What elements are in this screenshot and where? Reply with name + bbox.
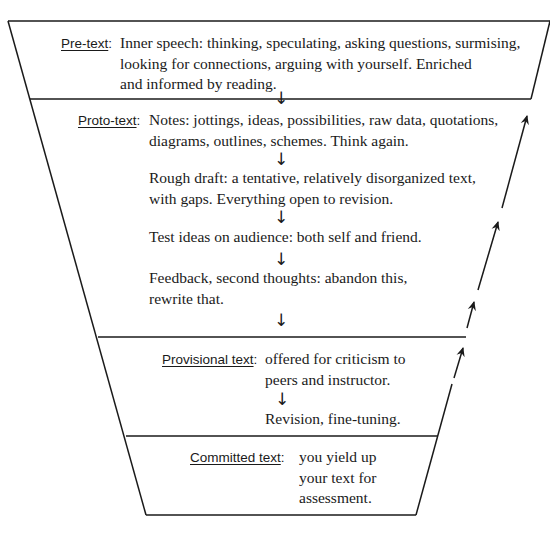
down-arrow-icon: ↓ <box>274 311 288 329</box>
committed-text-description: you yield up your text for assessment. <box>299 447 377 509</box>
proto-text-notes: Notes: jottings, ideas, possibilities, r… <box>149 110 498 151</box>
feedback-arrow-1 <box>502 116 527 208</box>
feedback-arrow-2 <box>478 222 498 290</box>
provisional-text-revision: Revision, fine-tuning. <box>265 409 401 430</box>
pre-text-description: Inner speech: thinking, speculating, ask… <box>120 33 520 95</box>
down-arrow-icon: ↓ <box>274 250 288 268</box>
provisional-text-label: Provisional text: <box>162 350 257 370</box>
pre-text-right-edge <box>531 21 550 99</box>
provisional-text-description: offered for criticism to peers and instr… <box>265 349 405 390</box>
proto-text-rough-draft: Rough draft: a tentative, relatively dis… <box>149 168 476 209</box>
down-arrow-icon: ↓ <box>275 390 289 408</box>
feedback-arrow-3 <box>467 302 474 328</box>
down-arrow-icon: ↓ <box>274 150 288 168</box>
down-arrow-icon: ↓ <box>274 89 288 107</box>
proto-text-test-ideas: Test ideas on audience: both self and fr… <box>149 227 422 248</box>
feedback-arrow-4 <box>454 348 463 378</box>
proto-text-feedback: Feedback, second thoughts: abandon this,… <box>149 268 407 309</box>
proto-text-label: Proto-text: <box>78 111 140 131</box>
committed-right-edge <box>416 384 452 515</box>
down-arrow-icon: ↓ <box>274 208 288 226</box>
pre-text-label: Pre-text: <box>61 34 112 54</box>
funnel-left-edge <box>8 21 146 515</box>
committed-text-label: Committed text: <box>190 448 285 468</box>
